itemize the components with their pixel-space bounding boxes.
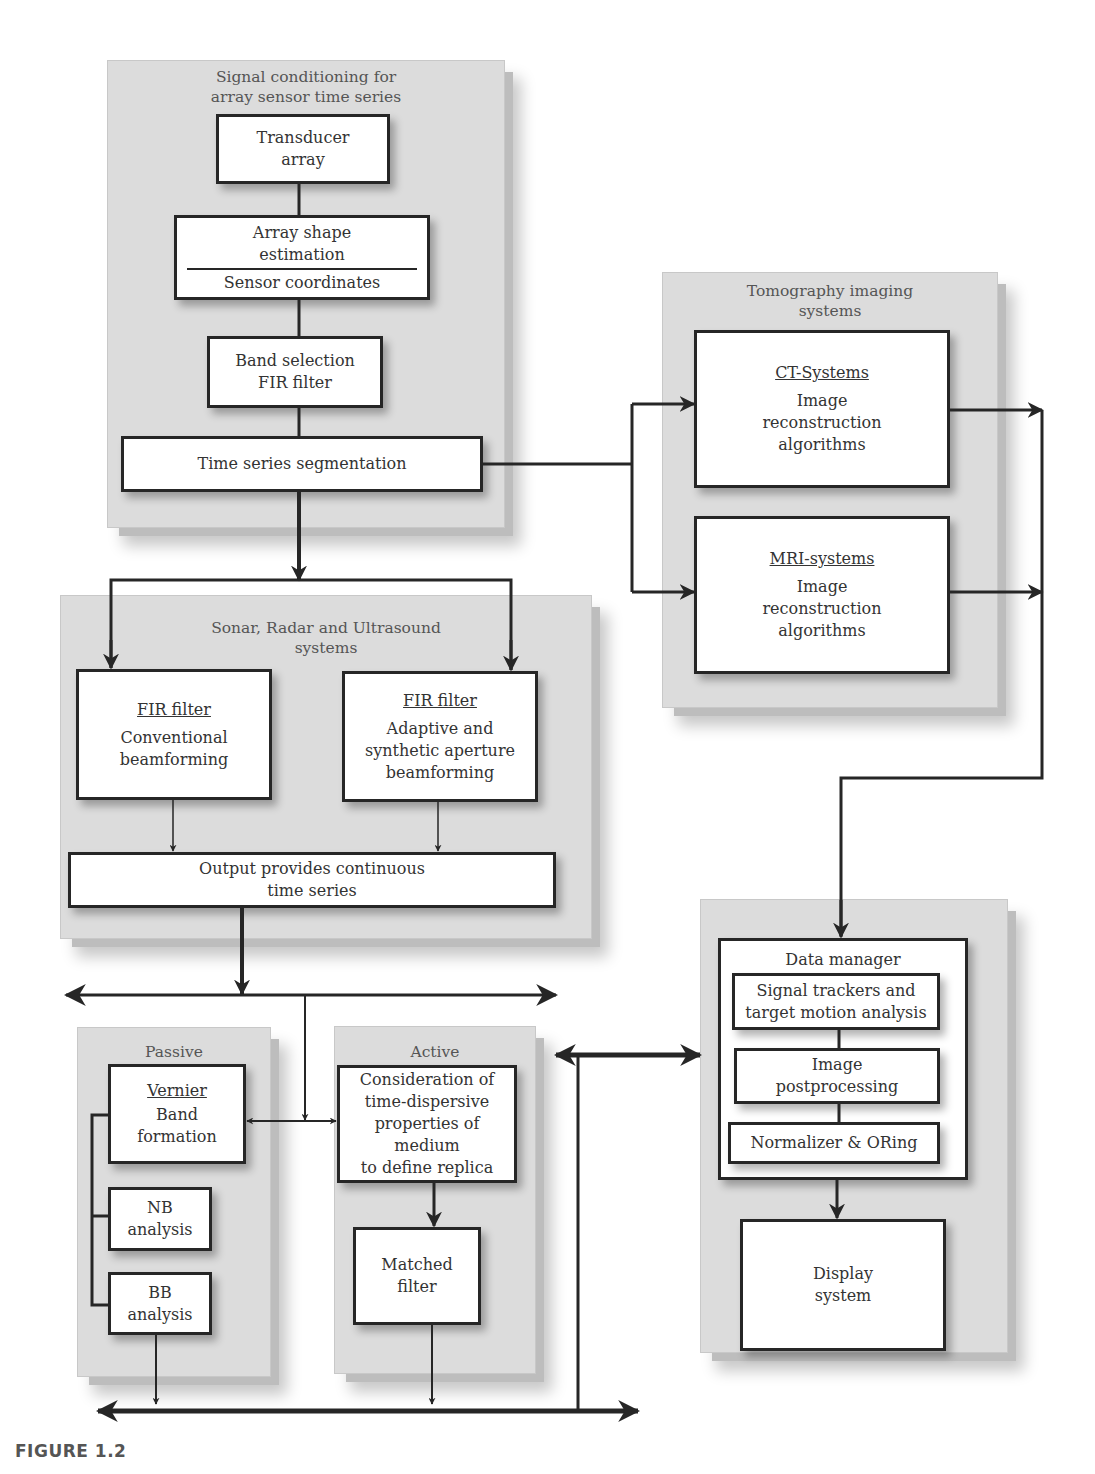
nb-analysis-label: NB analysis	[127, 1197, 192, 1241]
continuous-output-label: Output provides continuous time series	[199, 858, 425, 902]
active-title: Active	[335, 1042, 535, 1062]
sensor-coordinates-label: Sensor coordinates	[224, 272, 381, 294]
display-system-box: Display system	[740, 1219, 946, 1351]
ct-systems-body: Image reconstruction algorithms	[762, 390, 881, 456]
replica-consideration-label: Consideration of time-dispersive propert…	[340, 1069, 514, 1179]
ct-systems-box: CT-Systems Image reconstruction algorith…	[694, 330, 950, 488]
vernier-box: Vernier Band formation	[108, 1064, 246, 1164]
sonar-title: Sonar, Radar and Ultrasound systems	[61, 618, 591, 658]
transducer-array-label: Transducer array	[257, 127, 350, 171]
conventional-fir-heading: FIR filter	[137, 699, 211, 721]
array-shape-estimation-box: Array shape estimation Sensor coordinate…	[174, 215, 430, 300]
adaptive-fir-body: Adaptive and synthetic aperture beamform…	[365, 718, 515, 784]
image-postprocessing-label: Image postprocessing	[776, 1054, 899, 1098]
adaptive-beamforming-box: FIR filter Adaptive and synthetic apertu…	[342, 671, 538, 802]
vernier-body: Band formation	[137, 1104, 216, 1148]
time-series-segmentation-box: Time series segmentation	[121, 436, 483, 492]
nb-analysis-box: NB analysis	[108, 1187, 212, 1251]
signal-trackers-label: Signal trackers and target motion analys…	[745, 980, 926, 1024]
adaptive-fir-heading: FIR filter	[403, 690, 477, 712]
matched-filter-box: Matched filter	[353, 1227, 481, 1325]
passive-title: Passive	[78, 1042, 270, 1062]
signal-conditioning-title: Signal conditioning for array sensor tim…	[108, 67, 504, 107]
vernier-heading: Vernier	[147, 1080, 207, 1102]
data-manager-title: Data manager	[785, 949, 900, 971]
conventional-beamforming-box: FIR filter Conventional beamforming	[76, 669, 272, 800]
bb-analysis-label: BB analysis	[127, 1282, 192, 1326]
tomography-title: Tomography imaging systems	[663, 281, 997, 321]
normalizer-box: Normalizer & ORing	[728, 1122, 940, 1164]
divider	[187, 268, 417, 270]
mri-systems-box: MRI-systems Image reconstruction algorit…	[694, 516, 950, 674]
matched-filter-label: Matched filter	[381, 1254, 452, 1298]
band-selection-box: Band selection FIR filter	[207, 336, 383, 408]
segmentation-label: Time series segmentation	[197, 453, 406, 475]
continuous-output-box: Output provides continuous time series	[68, 852, 556, 908]
mri-systems-heading: MRI-systems	[770, 548, 875, 570]
array-shape-label: Array shape estimation	[253, 222, 351, 266]
signal-trackers-box: Signal trackers and target motion analys…	[732, 973, 940, 1030]
replica-consideration-box: Consideration of time-dispersive propert…	[337, 1065, 517, 1183]
conventional-fir-body: Conventional beamforming	[120, 727, 228, 771]
display-system-label: Display system	[813, 1263, 873, 1307]
figure-caption: FIGURE 1.2	[15, 1441, 126, 1461]
bb-analysis-box: BB analysis	[108, 1272, 212, 1335]
mri-systems-body: Image reconstruction algorithms	[762, 576, 881, 642]
image-postprocessing-box: Image postprocessing	[734, 1048, 940, 1104]
band-selection-label: Band selection FIR filter	[235, 350, 355, 394]
ct-systems-heading: CT-Systems	[775, 362, 869, 384]
transducer-array-box: Transducer array	[216, 114, 390, 184]
normalizer-label: Normalizer & ORing	[750, 1132, 917, 1154]
